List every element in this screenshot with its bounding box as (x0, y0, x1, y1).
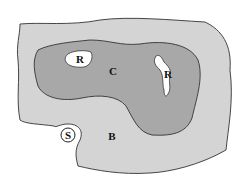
label-r-left: R (76, 53, 85, 65)
label-c: C (109, 65, 117, 77)
label-r-right: R (164, 68, 173, 80)
label-s: S (65, 129, 71, 141)
label-b: B (108, 130, 116, 142)
region-diagram: R C R S B (0, 0, 244, 182)
